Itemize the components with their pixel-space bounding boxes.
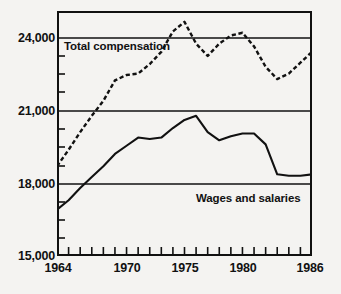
- y-axis-tick-labels: 24,000 21,000 18,000 15,000: [0, 0, 55, 294]
- x-tick-label-1970: 1970: [113, 262, 140, 275]
- x-tick-label-1980: 1980: [229, 262, 256, 275]
- y-tick-label-21000: 21,000: [1, 105, 55, 118]
- x-tick-label-1964: 1964: [44, 262, 71, 275]
- x-tick-label-1975: 1975: [171, 262, 198, 275]
- annotation-wages-and-salaries: Wages and salaries: [196, 193, 301, 205]
- annotation-total-compensation: Total compensation: [64, 41, 170, 53]
- x-tick-label-1986: 1986: [296, 262, 323, 275]
- chart-container: 24,000 21,000 18,000 15,000: [0, 0, 341, 294]
- y-tick-label-24000: 24,000: [1, 32, 55, 45]
- y-tick-label-18000: 18,000: [1, 178, 55, 191]
